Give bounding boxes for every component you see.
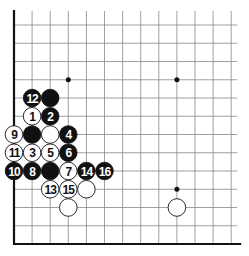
black-stone <box>41 89 59 107</box>
go-board-diagram: 12129411356108714161315 <box>0 0 249 256</box>
move-number: 11 <box>9 146 21 160</box>
move-number: 15 <box>63 183 76 197</box>
white-stone <box>168 199 186 217</box>
black-stone <box>41 162 59 180</box>
white-stone <box>60 199 78 217</box>
star-point-icon <box>174 187 179 192</box>
move-number: 14 <box>81 165 94 179</box>
star-point-icon <box>66 77 71 82</box>
white-stone <box>41 126 59 144</box>
move-number: 13 <box>45 183 58 197</box>
black-stone <box>23 126 41 144</box>
white-stone <box>78 180 96 198</box>
star-point-icon <box>174 77 179 82</box>
move-number: 16 <box>99 165 112 179</box>
move-number: 10 <box>8 165 21 179</box>
move-number: 12 <box>26 92 39 106</box>
go-board-grid: 12129411356108714161315 <box>0 0 249 256</box>
